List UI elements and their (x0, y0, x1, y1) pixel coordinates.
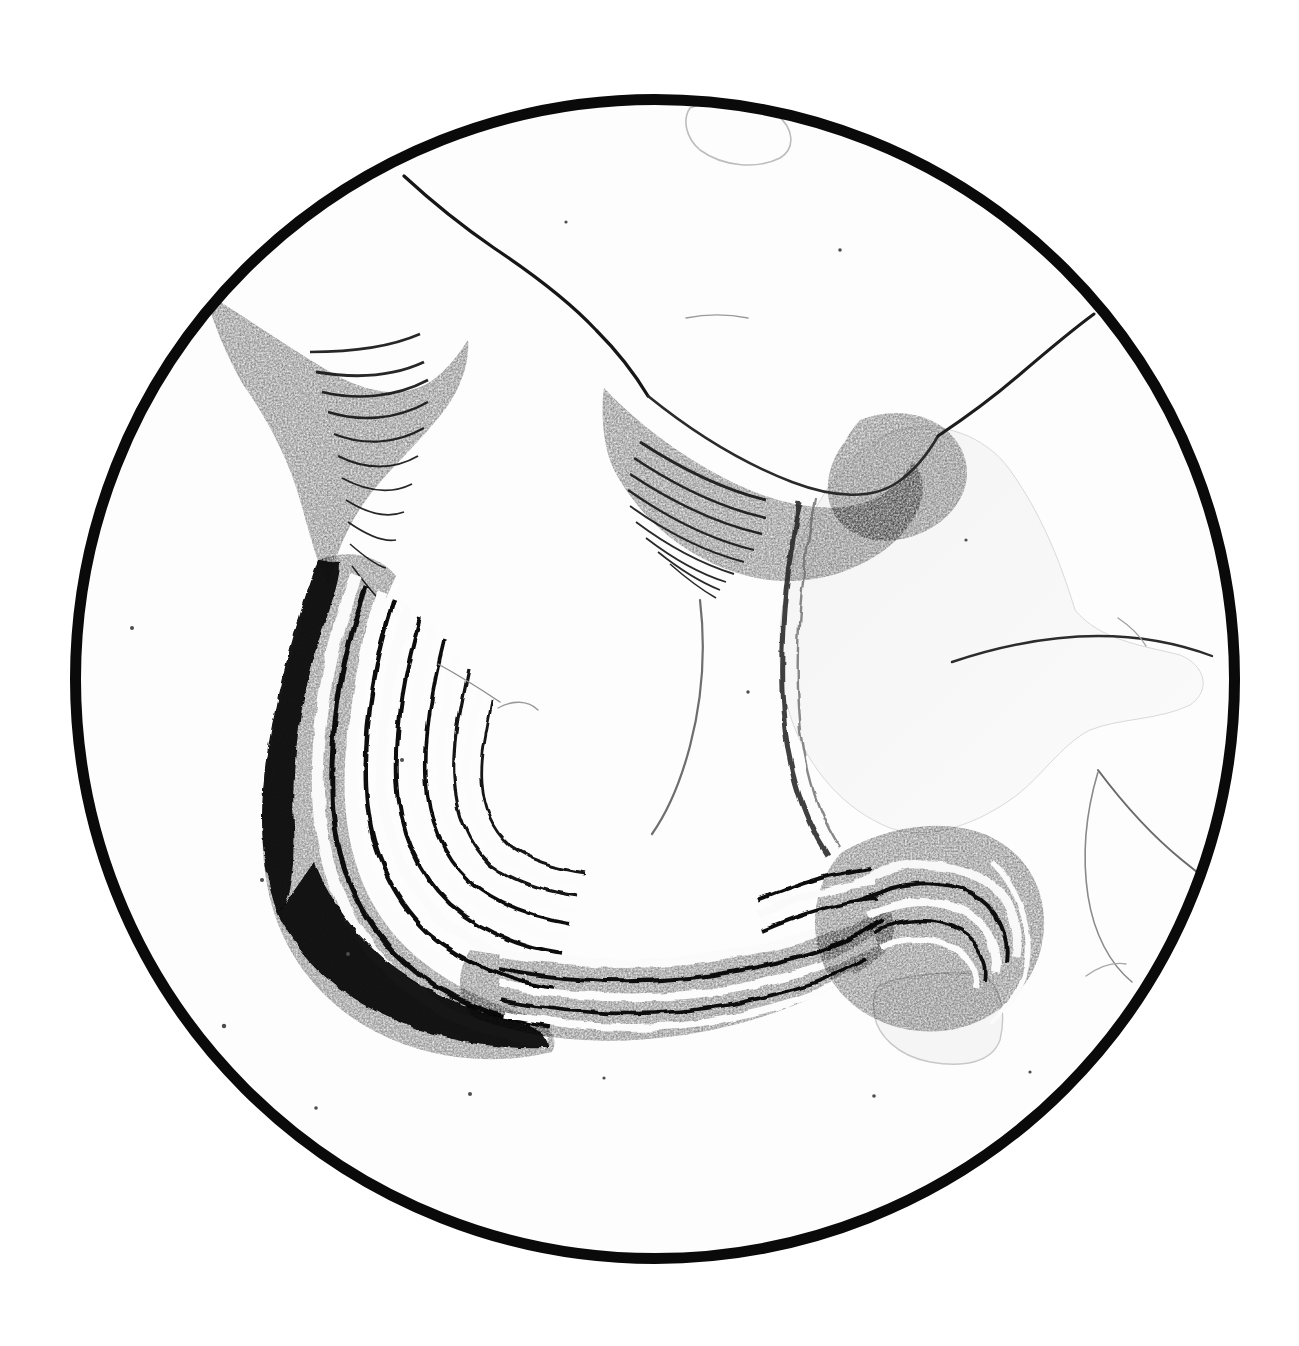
photomicrograph-canvas: Photomicrograph of thin section, circula… (0, 0, 1299, 1346)
photomicrograph-figure (0, 0, 1299, 1346)
